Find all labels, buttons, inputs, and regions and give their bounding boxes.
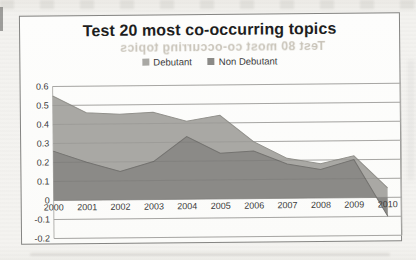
y-tick-label: 0.1 <box>21 177 49 187</box>
gridline <box>53 102 401 105</box>
gridline <box>53 83 401 86</box>
x-tick-label: 2003 <box>139 201 169 211</box>
x-tick-label: 2002 <box>105 202 135 212</box>
y-tick-label: 0.3 <box>21 139 49 149</box>
scan-smudge-bottom <box>30 253 390 256</box>
y-tick-label: -0.2 <box>22 234 50 244</box>
y-tick-label: 0.6 <box>21 82 49 92</box>
x-tick-label: 2009 <box>339 199 369 209</box>
x-tick-label: 2005 <box>206 201 236 211</box>
gridline <box>54 216 402 219</box>
scan-edge-mark <box>0 7 3 31</box>
scanned-page: Test 80 most co-occurring topics Test 20… <box>0 0 416 260</box>
x-tick-label: 2007 <box>272 200 302 210</box>
gridline <box>54 235 402 238</box>
x-tick-label: 2006 <box>239 200 269 210</box>
scan-smudge-top <box>0 0 416 9</box>
y-tick-label: 0.2 <box>21 158 49 168</box>
x-tick-label: 2004 <box>172 201 202 211</box>
x-tick-label: 2010 <box>373 199 403 209</box>
x-tick-label: 2008 <box>306 200 336 210</box>
y-tick-label: 0.5 <box>21 101 49 111</box>
y-tick-label: 0.4 <box>21 120 49 130</box>
scan-smudge-right <box>408 60 414 180</box>
x-tick-label: 2001 <box>72 202 102 212</box>
x-tick-label: 2000 <box>39 202 69 212</box>
chart-frame: Test 80 most co-occurring topics Test 20… <box>19 12 402 245</box>
y-tick-label: -0.1 <box>22 215 50 225</box>
